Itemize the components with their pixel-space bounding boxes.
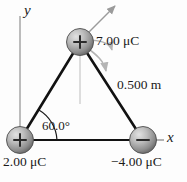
side-length-label: 0.500 m [117,78,161,92]
charge-label-bottom-left: 2.00 μC [3,155,46,169]
angle-label: 60.0° [42,119,70,132]
y-axis-label: y [24,3,31,18]
physics-diagram: y x 7.00 μC 2.00 μC −4.00 μC 0.500 m 60.… [0,0,187,182]
charge-sphere-bottom-right [130,127,157,154]
charge-label-top: 7.00 μC [96,34,139,48]
charge-sphere-bottom-left [7,127,34,154]
charge-label-bottom-right: −4.00 μC [111,155,162,169]
x-axis-label: x [167,130,174,145]
charge-sphere-top [67,29,94,56]
